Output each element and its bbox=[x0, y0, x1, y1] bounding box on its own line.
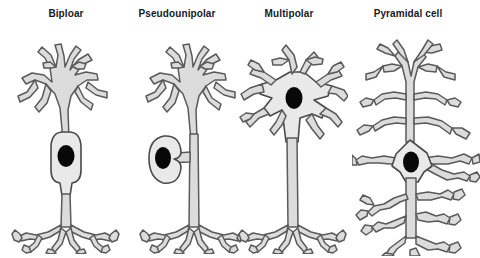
multipolar-axon bbox=[287, 138, 298, 227]
neuron-multipolar bbox=[236, 22, 348, 254]
pseudounipolar-dendritic-tree bbox=[146, 44, 235, 140]
multipolar-nucleus bbox=[286, 87, 303, 109]
neuron-pseudounipolar bbox=[124, 22, 242, 254]
pyramidal-nucleus bbox=[403, 152, 419, 173]
panel-label-pseudounipolar: Pseudounipolar bbox=[139, 8, 216, 20]
bipolar-nucleus bbox=[58, 145, 75, 167]
pseudounipolar-trunk bbox=[189, 134, 199, 227]
panel-label-pyramidal: Pyramidal cell bbox=[374, 8, 443, 20]
multipolar-axon-terminals bbox=[239, 225, 346, 254]
panel-label-multipolar: Multipolar bbox=[265, 8, 314, 20]
pyramidal-axon bbox=[406, 178, 416, 238]
panel-label-bipolar: Biploar bbox=[48, 8, 83, 20]
neuron-pyramidal bbox=[352, 22, 480, 256]
bipolar-dendritic-tree bbox=[18, 44, 107, 140]
neuron-types-diagram: Biploar Pseudounipolar Multipolar Pyrami… bbox=[0, 0, 480, 258]
bipolar-axon bbox=[61, 194, 71, 227]
pseudounipolar-axon-terminals bbox=[140, 225, 242, 254]
pseudounipolar-nucleus bbox=[155, 147, 171, 169]
bipolar-axon-terminals bbox=[12, 225, 119, 254]
neuron-bipolar bbox=[8, 22, 120, 254]
